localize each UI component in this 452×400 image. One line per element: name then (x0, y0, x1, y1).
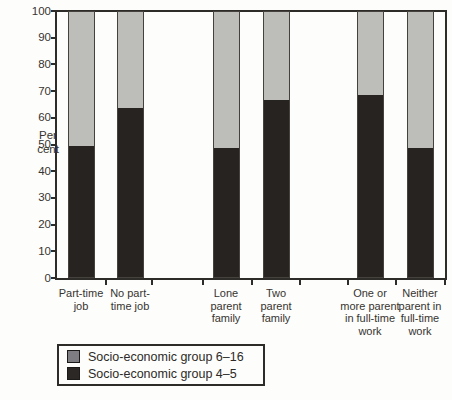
bar-segment-group-6-16 (408, 12, 433, 148)
y-tick-mark (51, 10, 57, 12)
stacked-bar-chart-figure: Per cent 0102030405060708090100Part-time… (0, 0, 452, 400)
category-label-line: Two (246, 287, 306, 300)
x-tick-mark (202, 280, 204, 285)
y-tick-label: 80 (19, 58, 51, 71)
y-tick-label: 50 (19, 138, 51, 151)
category-label-line: family (246, 312, 306, 325)
stacked-bar (117, 11, 144, 278)
category-label-line: parent in (388, 300, 452, 313)
stacked-bar (213, 11, 240, 278)
y-tick-mark (51, 144, 57, 146)
y-tick-label: 70 (19, 85, 51, 98)
y-tick-mark (51, 90, 57, 92)
category-label: Neitherparent infull-timework (388, 287, 452, 337)
category-label-line: parent (246, 300, 306, 313)
y-tick-mark (51, 224, 57, 226)
y-tick-mark (51, 170, 57, 172)
bar-segment-group-4-5 (408, 148, 433, 277)
plot-top-border (55, 10, 447, 12)
y-tick-mark (51, 63, 57, 65)
y-tick-label: 10 (19, 245, 51, 258)
bar-segment-group-6-16 (118, 12, 143, 108)
bar-segment-group-4-5 (214, 148, 239, 277)
bar-segment-group-4-5 (264, 100, 289, 277)
category-label: No part-time job (97, 287, 163, 312)
category-label-line: time job (97, 300, 163, 313)
bar-segment-group-4-5 (69, 146, 94, 278)
bar-segment-group-4-5 (358, 95, 383, 277)
category-label-line: No part- (97, 287, 163, 300)
category-label: Twoparentfamily (246, 287, 306, 325)
stacked-bar (357, 11, 384, 278)
legend-swatch-icon (67, 367, 80, 380)
x-tick-mark (444, 280, 446, 285)
x-tick-mark (395, 280, 397, 285)
bar-segment-group-6-16 (264, 12, 289, 100)
y-tick-mark (51, 277, 57, 279)
stacked-bar (68, 11, 95, 278)
y-tick-mark (51, 197, 57, 199)
y-tick-label: 20 (19, 218, 51, 231)
legend-label: Socio-economic group 4–5 (88, 367, 237, 381)
bar-segment-group-6-16 (214, 12, 239, 148)
category-label-line: full-time (388, 312, 452, 325)
bar-segment-group-6-16 (69, 12, 94, 146)
y-tick-mark (51, 37, 57, 39)
legend-label: Socio-economic group 6–16 (88, 350, 244, 364)
x-tick-mark (251, 280, 253, 285)
y-tick-label: 100 (19, 5, 51, 18)
y-tick-label: 30 (19, 191, 51, 204)
y-tick-label: 0 (19, 272, 51, 285)
category-label-line: Neither (388, 287, 452, 300)
legend-swatch-icon (67, 350, 80, 363)
x-tick-mark (347, 280, 349, 285)
x-tick-mark (299, 280, 301, 285)
bar-segment-group-6-16 (358, 12, 383, 95)
y-tick-label: 40 (19, 165, 51, 178)
category-label-line: work (388, 325, 452, 338)
x-tick-mark (105, 280, 107, 285)
legend-box: Socio-economic group 6–16Socio-economic … (57, 344, 265, 386)
bar-segment-group-4-5 (118, 108, 143, 277)
y-tick-mark (51, 250, 57, 252)
y-tick-label: 60 (19, 111, 51, 124)
stacked-bar (407, 11, 434, 278)
legend-row: Socio-economic group 6–16 (67, 350, 263, 364)
stacked-bar (263, 11, 290, 278)
plot-right-border (445, 10, 447, 280)
x-tick-mark (151, 280, 153, 285)
y-tick-label: 90 (19, 31, 51, 44)
y-tick-mark (51, 117, 57, 119)
legend-row: Socio-economic group 4–5 (67, 367, 263, 381)
